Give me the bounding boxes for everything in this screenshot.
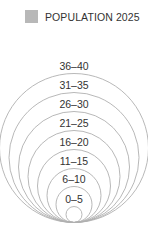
ring-label: 0–5 [65, 193, 83, 205]
ring-0–5 [66, 207, 82, 223]
ring-label: 31–35 [59, 79, 88, 91]
nested-circle-chart: 36–4031–3526–3021–2516–2011–156–100–5 [0, 0, 148, 227]
ring-label: 11–15 [60, 155, 89, 167]
ring-label: 36–40 [59, 60, 88, 72]
ring-label: 16–20 [59, 136, 88, 148]
ring-label: 21–25 [59, 117, 88, 129]
ring-label: 26–30 [59, 98, 88, 110]
ring-label: 6–10 [62, 173, 86, 185]
